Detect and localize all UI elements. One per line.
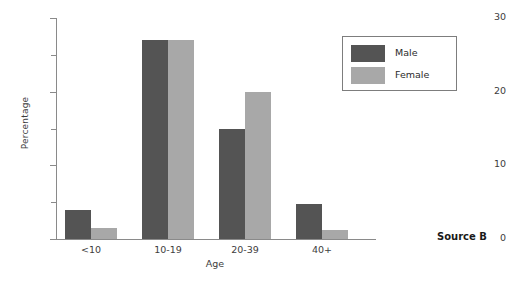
x-axis-title: Age	[55, 258, 375, 269]
x-axis-line	[56, 239, 376, 240]
x-tick-label: 10-19	[128, 244, 208, 255]
y-axis-title: Percentage	[20, 78, 30, 168]
bar-male-1	[142, 40, 168, 239]
legend-label-male: Male	[395, 47, 418, 58]
y-tick-mark	[50, 239, 56, 240]
bar-group	[142, 18, 194, 239]
bar-male-2	[219, 129, 245, 240]
x-tick-label: <10	[51, 244, 131, 255]
legend-swatch-female	[351, 67, 385, 84]
bar-male-3	[296, 204, 322, 239]
bar-female-2	[245, 92, 271, 239]
bar-group	[296, 18, 348, 239]
bar-female-3	[322, 230, 348, 239]
x-tick-label: 40+	[282, 244, 362, 255]
legend-label-female: Female	[395, 69, 429, 80]
bar-group	[219, 18, 271, 239]
source-label: Source B	[437, 231, 487, 242]
x-tick-label: 20-39	[205, 244, 285, 255]
y-tick-label: 30	[478, 11, 506, 22]
plot-area	[56, 18, 376, 239]
bar-female-0	[91, 228, 117, 239]
bar-chart: Percentage 0102030 <1010-1920-3940+ Age …	[0, 0, 506, 284]
bar-male-0	[65, 210, 91, 239]
bar-female-1	[168, 40, 194, 239]
legend-swatch-male	[351, 45, 385, 62]
y-tick-label: 10	[478, 158, 506, 169]
legend: Male Female	[342, 36, 457, 91]
y-tick-label: 20	[478, 85, 506, 96]
bar-group	[65, 18, 117, 239]
